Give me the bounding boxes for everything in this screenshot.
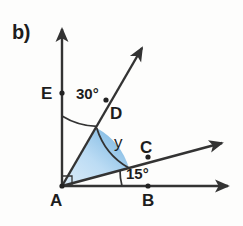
point-label-E: E xyxy=(41,85,52,102)
point-label-D: D xyxy=(110,105,122,122)
point-label-B: B xyxy=(142,192,154,209)
point-label-C: C xyxy=(140,139,152,156)
geometry-figure: b) E 30° D y C 15° A B xyxy=(0,0,243,226)
point-label-A: A xyxy=(50,192,62,209)
point-dot-B xyxy=(145,183,150,188)
angle-label-15-degrees: 15° xyxy=(126,166,149,181)
arc-15-degrees xyxy=(120,171,122,187)
point-dot-A xyxy=(59,183,64,188)
arc-30-degrees xyxy=(62,116,97,126)
angle-label-30-degrees: 30° xyxy=(76,86,99,101)
part-label: b) xyxy=(12,22,30,42)
angle-label-y: y xyxy=(114,134,123,151)
point-dot-D xyxy=(103,97,108,102)
point-dot-E xyxy=(59,90,64,95)
